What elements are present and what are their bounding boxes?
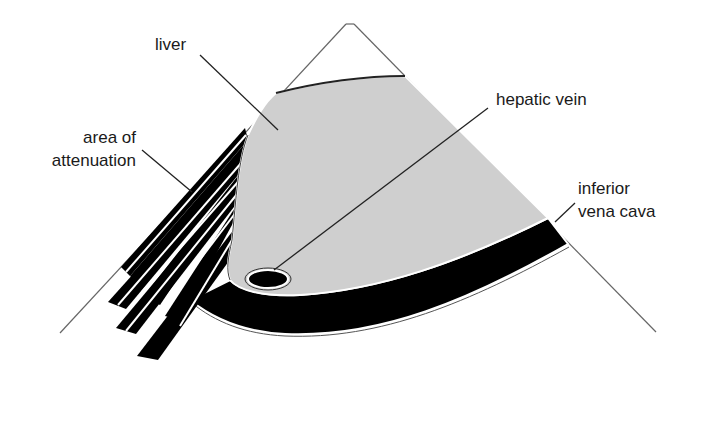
label-liver: liver [155,34,186,55]
label-hepatic-vein: hepatic vein [496,89,587,110]
label-area-of-attenuation-line1: area of [72,127,136,148]
label-inferior-vena-cava-line2: vena cava [578,201,656,222]
label-area-of-attenuation-line2: attenuation [30,150,136,171]
label-inferior-vena-cava-line1: inferior [578,178,630,199]
area-of-attenuation-leader-line [142,150,192,192]
liver-leader-line [200,55,278,130]
hepatic-vein-shape [248,270,288,288]
ivc-leader-line [555,203,575,222]
